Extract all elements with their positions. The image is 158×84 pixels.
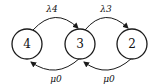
node-3: 3: [65, 29, 95, 59]
edge-3-to-4: [31, 58, 80, 70]
edge-label-lambda3: λ3: [99, 4, 112, 14]
node-2: 2: [117, 29, 147, 59]
node-4-label: 4: [23, 37, 31, 51]
node-2-label: 2: [128, 37, 136, 51]
edge-2-to-3: [84, 58, 132, 70]
edge-label-mu0-left: μ0: [50, 74, 62, 84]
state-diagram: 4 3 2 λ4 λ3 μ0 μ0: [0, 0, 158, 84]
node-3-label: 3: [76, 37, 84, 51]
node-4: 4: [12, 29, 42, 59]
edge-label-lambda4: λ4: [45, 4, 58, 14]
edge-4-to-3: [33, 17, 78, 30]
edge-3-to-2: [85, 17, 128, 30]
edge-label-mu0-right: μ0: [103, 74, 115, 84]
